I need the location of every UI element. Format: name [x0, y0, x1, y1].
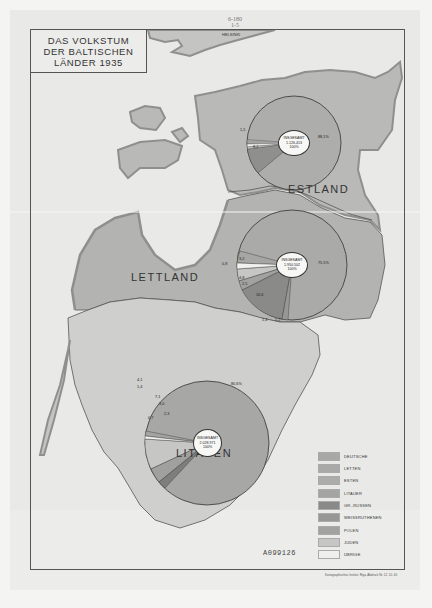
pie-label: 1,2 — [275, 318, 280, 322]
legend-item-weissruthenen: WEISSRUTHENEN — [318, 513, 408, 523]
legend-label: GR.-RUSSEN — [344, 503, 371, 508]
pie-label: 8,2 — [253, 145, 258, 149]
printer-note: Kartographisches Institut, Riga, Abdruck… — [325, 573, 397, 577]
country-label-estland: ESTLAND — [288, 183, 349, 195]
pie-label: 75,5% — [318, 261, 329, 265]
legend-label: JUDEN — [344, 540, 358, 545]
pie-label: 80,6% — [231, 382, 242, 386]
pie-center-text: 100% — [287, 267, 296, 271]
legend-label: POLEN — [344, 528, 359, 533]
legend-item-juden: JUDEN — [318, 538, 408, 548]
city-label-helsinki: HELSINKI — [222, 32, 240, 37]
legend-item-esten: ESTEN — [318, 476, 408, 486]
pie-label: 3,2 — [239, 257, 244, 261]
title-line: DER BALTISCHEN — [43, 46, 133, 57]
pie-label: 0,7 — [148, 416, 153, 420]
legend-swatch — [318, 476, 340, 485]
legend-swatch — [318, 489, 340, 498]
pie-center-text: 100% — [203, 445, 212, 449]
legend-item-polen: POLEN — [318, 526, 408, 536]
pie-label: 4,1 — [137, 378, 142, 382]
country-label-lettland: LETTLAND — [131, 271, 199, 283]
legend-swatch — [318, 526, 340, 535]
legend-item-gr-russen: GR.-RUSSEN — [318, 501, 408, 511]
title-line: DAS VOLKSTUM — [48, 35, 130, 46]
pie-label: 88,1% — [318, 135, 329, 139]
legend-label: ÜBRIGE — [344, 552, 361, 557]
legend-swatch — [318, 550, 340, 559]
legend-swatch — [318, 452, 340, 461]
legend-label: DEUTSCHE — [344, 454, 368, 459]
pie-center-litauen: INSGESAMT 2.028.971 100% — [193, 429, 222, 457]
pie-center-text: 100% — [289, 145, 298, 149]
legend-label: LITAUER — [344, 491, 362, 496]
title-line: LÄNDER 1935 — [54, 57, 123, 68]
pie-center-lettland: INSGESAMT 1.950.502 100% — [276, 252, 308, 278]
legend-item-litauer: LITAUER — [318, 489, 408, 499]
pie-label: 1,5 — [240, 128, 245, 132]
legend-swatch — [318, 501, 340, 510]
title-box: DAS VOLKSTUM DER BALTISCHEN LÄNDER 1935 — [31, 30, 147, 73]
pie-label: 1,4 — [137, 385, 142, 389]
pie-label: 7,1 — [155, 395, 160, 399]
pie-label: 0,8 — [222, 262, 227, 266]
legend-label: ESTEN — [344, 478, 358, 483]
pie-label: 3,0 — [159, 402, 164, 406]
legend-item-letten: LETTEN — [318, 464, 408, 474]
legend-item-deutsche: DEUTSCHE — [318, 452, 408, 462]
legend-swatch — [318, 538, 340, 547]
legend-label: WEISSRUTHENEN — [344, 515, 382, 520]
archive-stamp: A099126 — [263, 549, 296, 557]
legend-swatch — [318, 513, 340, 522]
pie-label: 1,4 — [262, 318, 267, 322]
pie-label: 2,5 — [242, 282, 247, 286]
pie-label: 2,3 — [164, 412, 169, 416]
pie-label: 10,6 — [256, 293, 263, 297]
pie-label: 4,8 — [239, 276, 244, 280]
legend-label: LETTEN — [344, 466, 361, 471]
legend-swatch — [318, 464, 340, 473]
legend-item-uebrige: ÜBRIGE — [318, 550, 408, 560]
pie-center-estland: INSGESAMT 1.126.413 100% — [278, 130, 310, 156]
